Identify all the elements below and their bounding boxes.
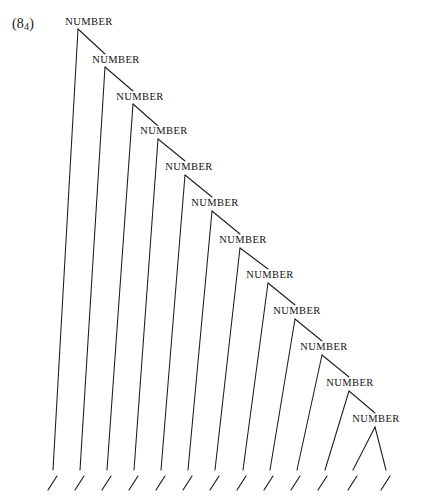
tree-branch-right (349, 391, 375, 413)
tree-node-label: NUMBER (218, 235, 268, 246)
terminal-slash (348, 476, 357, 490)
tree-node-label: NUMBER (299, 342, 349, 353)
terminal-slash (156, 476, 165, 490)
terminal-slash-group (48, 476, 390, 490)
tree-branch-left (297, 355, 322, 470)
tree-node-label: NUMBER (64, 17, 114, 28)
tree-branch-left (243, 283, 268, 470)
tree-branch-left (188, 211, 212, 470)
tree-branch-left (53, 29, 78, 470)
left-branch-group (53, 29, 375, 470)
terminal-slash (75, 476, 84, 490)
tree-branch-right (212, 211, 240, 234)
tree-branch-left (134, 139, 158, 470)
tree-branch-right (158, 139, 185, 161)
tree-node-label: NUMBER (245, 270, 295, 281)
tree-branch-right (133, 104, 158, 126)
tree-branch-right (78, 29, 105, 54)
tree-branch-left (80, 67, 105, 470)
tree-branch-left (270, 319, 295, 470)
tree-node-label: NUMBER (91, 55, 141, 66)
tree-node-label: NUMBER (272, 306, 322, 317)
terminal-slash (183, 476, 192, 490)
tree-branch-left (353, 427, 375, 470)
tree-node-label: NUMBER (115, 92, 165, 103)
terminal-slash (291, 476, 300, 490)
tree-node-label: NUMBER (139, 126, 189, 137)
tree-branch-right (185, 175, 212, 197)
tree-branch-right (105, 67, 133, 91)
terminal-slash (381, 476, 390, 490)
terminal-slash (237, 476, 246, 490)
tree-branch-left (161, 175, 185, 470)
tree-branch-left (325, 391, 349, 470)
tree-branch-right (268, 283, 295, 305)
terminal-slash (318, 476, 327, 490)
tree-branch-right (375, 427, 386, 470)
tree-branch-right (322, 355, 349, 377)
tree-node-label: NUMBER (351, 414, 401, 425)
figure-page: (84) NUMBERNUMBERNUMBERNUMBERNUMBERNUMBE… (0, 0, 441, 498)
tree-branch-left (107, 104, 133, 470)
tree-node-label: NUMBER (190, 198, 240, 209)
terminal-slash (210, 476, 219, 490)
tree-branch-right (240, 248, 268, 269)
tree-node-label: NUMBER (164, 162, 214, 173)
terminal-slash (48, 476, 57, 490)
terminal-slash (264, 476, 273, 490)
tree-node-label: NUMBER (325, 378, 375, 389)
terminal-slash (102, 476, 111, 490)
tree-branch-right (295, 319, 322, 341)
tree-branch-left (215, 248, 240, 470)
terminal-slash (129, 476, 138, 490)
